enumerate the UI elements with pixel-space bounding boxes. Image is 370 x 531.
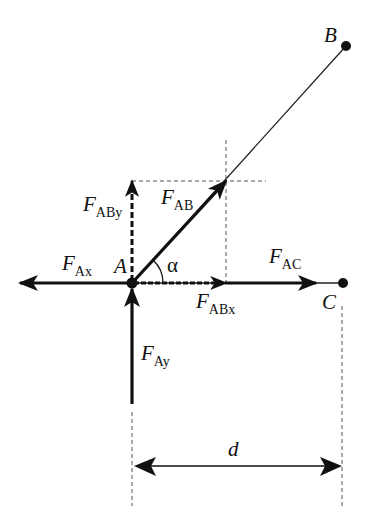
label-force-fax: FAx bbox=[61, 251, 92, 279]
force-fab-arrow bbox=[132, 181, 226, 283]
label-force-fay: FAy bbox=[140, 341, 170, 369]
label-force-faby: FABy bbox=[82, 192, 122, 220]
label-dimension-d: d bbox=[228, 437, 239, 461]
label-force-fac: FAC bbox=[268, 244, 301, 272]
label-point-b: B bbox=[324, 23, 337, 47]
angle-alpha-arc bbox=[153, 260, 163, 283]
label-force-fabx: FABx bbox=[195, 289, 235, 317]
label-point-c: C bbox=[322, 290, 337, 314]
label-angle-alpha: α bbox=[167, 253, 178, 277]
point-b bbox=[341, 41, 351, 51]
label-point-a: A bbox=[112, 254, 127, 278]
label-force-fab: FAB bbox=[160, 185, 193, 213]
force-diagram: A B C α d FABy FAB FAx FAC FABx FAy bbox=[0, 0, 370, 531]
point-c bbox=[338, 278, 348, 288]
point-a bbox=[127, 278, 138, 289]
